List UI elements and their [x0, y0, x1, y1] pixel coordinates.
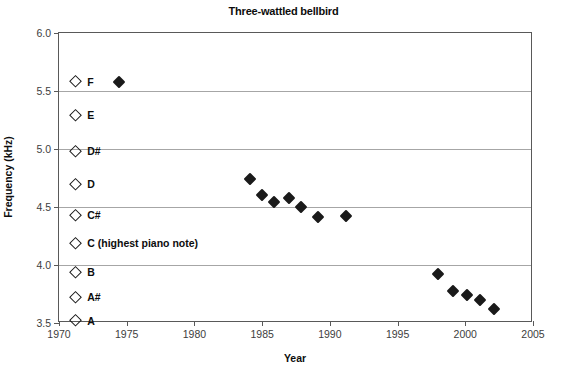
data-point	[432, 268, 445, 281]
note-marker-3: D	[71, 179, 95, 190]
x-tick-1970	[59, 321, 60, 326]
open-diamond-icon	[69, 177, 82, 190]
open-diamond-icon	[69, 209, 82, 222]
x-tick-2005	[533, 321, 534, 326]
note-marker-5: C (highest piano note)	[71, 238, 198, 249]
data-point	[112, 75, 125, 88]
open-diamond-icon	[69, 75, 82, 88]
open-diamond-icon	[69, 237, 82, 250]
x-tick-1975	[127, 321, 128, 326]
x-tick-1985	[262, 321, 263, 326]
x-tick-label-1995: 1995	[386, 328, 409, 340]
chart-title: Three-wattled bellbird	[0, 5, 567, 17]
data-point	[256, 189, 269, 202]
y-tick-label-4.0: 4.0	[36, 259, 51, 271]
plot-area: 3.54.04.55.05.56.0 197019751980198519901…	[58, 32, 532, 322]
y-tick-4.0	[54, 265, 59, 266]
note-label: D	[87, 179, 95, 190]
y-axis-title: Frequency (kHz)	[2, 136, 14, 218]
x-tick-1980	[194, 321, 195, 326]
note-label: A#	[87, 292, 100, 303]
x-tick-1990	[330, 321, 331, 326]
note-marker-2: D#	[71, 146, 100, 157]
x-tick-label-2000: 2000	[454, 328, 477, 340]
data-point	[487, 303, 500, 316]
open-diamond-icon	[69, 145, 82, 158]
data-point	[244, 173, 257, 186]
open-diamond-icon	[69, 291, 82, 304]
note-label: C#	[87, 210, 100, 221]
data-point	[340, 210, 353, 223]
gridline-y-5.0	[59, 149, 531, 150]
note-marker-8: A	[71, 315, 95, 326]
note-label: A	[87, 315, 95, 326]
open-diamond-icon	[69, 266, 82, 279]
open-diamond-icon	[69, 109, 82, 122]
x-axis-title: Year	[58, 352, 532, 364]
x-tick-2000	[465, 321, 466, 326]
data-point	[295, 201, 308, 214]
data-point	[283, 191, 296, 204]
note-label: E	[87, 110, 94, 121]
y-tick-6.0	[54, 33, 59, 34]
x-tick-label-1990: 1990	[318, 328, 341, 340]
x-tick-label-2005: 2005	[521, 328, 544, 340]
x-tick-label-1980: 1980	[183, 328, 206, 340]
note-label: C (highest piano note)	[87, 238, 198, 249]
note-marker-4: C#	[71, 210, 100, 221]
note-marker-6: B	[71, 267, 95, 278]
y-tick-label-6.0: 6.0	[36, 27, 51, 39]
y-tick-5.5	[54, 91, 59, 92]
data-point	[447, 284, 460, 297]
note-marker-7: A#	[71, 292, 100, 303]
y-tick-label-4.5: 4.5	[36, 201, 51, 213]
data-point	[311, 211, 324, 224]
y-tick-label-5.0: 5.0	[36, 143, 51, 155]
note-marker-0: F	[71, 76, 93, 87]
x-tick-label-1985: 1985	[250, 328, 273, 340]
data-point	[474, 293, 487, 306]
note-marker-1: E	[71, 110, 94, 121]
y-tick-label-5.5: 5.5	[36, 85, 51, 97]
note-label: F	[87, 76, 93, 87]
data-point	[460, 289, 473, 302]
y-tick-5.0	[54, 149, 59, 150]
y-tick-4.5	[54, 207, 59, 208]
x-tick-label-1970: 1970	[47, 328, 70, 340]
note-label: D#	[87, 146, 100, 157]
chart-figure: Three-wattled bellbird 3.54.04.55.05.56.…	[0, 0, 567, 378]
note-label: B	[87, 267, 95, 278]
gridline-y-4.0	[59, 265, 531, 266]
open-diamond-icon	[69, 314, 82, 327]
x-tick-label-1975: 1975	[115, 328, 138, 340]
gridline-y-5.5	[59, 91, 531, 92]
x-tick-1995	[398, 321, 399, 326]
